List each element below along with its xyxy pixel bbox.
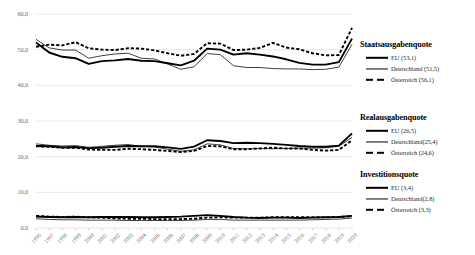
legend-item-label: EU (53,1)	[391, 54, 416, 61]
legend-group-2: RealausgabenquoteEU (26,5)Deutschland(25…	[360, 113, 475, 158]
legend-item-label: Österreich (24,6)	[391, 149, 434, 156]
legend-item[interactable]: Österreich (3,3)	[360, 204, 475, 215]
legend-item-label: EU (26,5)	[391, 127, 416, 134]
y-tick-label: 60,0	[4, 10, 28, 17]
legend-group-1: StaatsausgabenquoteEU (53,1)Deutschland …	[360, 40, 475, 85]
legend-item-label: Österreich (56,1)	[391, 76, 434, 83]
legend-line-sample-icon	[366, 138, 388, 146]
legend-line-sample-icon	[366, 54, 388, 62]
legend-item[interactable]: EU (3,4)	[360, 182, 475, 193]
series-line-0	[36, 39, 352, 66]
legend-group-title: Realausgabenquote	[360, 113, 475, 122]
legend-item[interactable]: Deutschland (51,5)	[360, 63, 475, 74]
legend-group-3: InvestitionsquoteEU (3,4)Deutschland(2,8…	[360, 170, 475, 215]
legend-item[interactable]: Deutschland(2,8)	[360, 193, 475, 204]
y-tick-label: 30,0	[4, 117, 28, 124]
legend-line-sample-icon	[366, 76, 388, 84]
legend-line-sample-icon	[366, 65, 388, 73]
plot-svg	[0, 0, 360, 255]
legend-item-label: Deutschland(2,8)	[391, 195, 434, 202]
legend-line-sample-icon	[366, 149, 388, 157]
legend-line-sample-icon	[366, 195, 388, 203]
legend-group-title: Staatsausgabenquote	[360, 40, 475, 49]
legend-item[interactable]: Österreich (24,6)	[360, 147, 475, 158]
legend-item[interactable]: Österreich (56,1)	[360, 74, 475, 85]
y-tick-label: 0,0	[4, 224, 28, 231]
legend-item-label: Deutschland (51,5)	[391, 65, 439, 72]
series-line-2	[36, 28, 352, 56]
chart-root: 0,010,020,030,040,050,060,0 199619971998…	[0, 0, 475, 255]
legend-line-sample-icon	[366, 127, 388, 135]
legend-item[interactable]: EU (53,1)	[360, 52, 475, 63]
legend-item-label: Österreich (3,3)	[391, 206, 431, 213]
y-tick-label: 40,0	[4, 81, 28, 88]
legend-item-label: Deutschland(25,4)	[391, 138, 438, 145]
series-layer	[36, 28, 352, 221]
legend-line-sample-icon	[366, 206, 388, 214]
plot-area: 0,010,020,030,040,050,060,0 199619971998…	[0, 0, 360, 255]
legend-item[interactable]: EU (26,5)	[360, 125, 475, 136]
legend-group-title: Investitionsquote	[360, 170, 475, 179]
legend-item-label: EU (3,4)	[391, 184, 413, 191]
y-tick-label: 20,0	[4, 153, 28, 160]
y-tick-label: 10,0	[4, 188, 28, 195]
legend-item[interactable]: Deutschland(25,4)	[360, 136, 475, 147]
legend-line-sample-icon	[366, 184, 388, 192]
chart-legend: StaatsausgabenquoteEU (53,1)Deutschland …	[360, 0, 475, 255]
y-tick-label: 50,0	[4, 46, 28, 53]
